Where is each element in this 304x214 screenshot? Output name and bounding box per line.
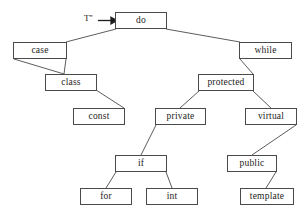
tree-node-for[interactable]: for xyxy=(80,188,132,205)
tree-node-label: class xyxy=(61,78,80,88)
tree-edge xyxy=(253,91,271,108)
tree-node-const[interactable]: const xyxy=(73,108,125,125)
tree-edge xyxy=(64,59,66,74)
tree-node-label: private xyxy=(167,112,195,122)
tree-edge xyxy=(14,59,64,74)
tree-edge xyxy=(180,91,199,108)
tree-node-template[interactable]: template xyxy=(240,188,294,205)
tree-edge xyxy=(166,29,240,42)
tree-node-label: template xyxy=(250,192,284,202)
tree-node-while[interactable]: while xyxy=(239,42,292,59)
tree-node-label: int xyxy=(167,192,178,202)
tree-edge xyxy=(240,59,253,74)
tree-edge xyxy=(252,125,296,155)
tree-edge xyxy=(106,172,116,188)
tree-node-case[interactable]: case xyxy=(13,42,67,59)
tree-node-do[interactable]: do xyxy=(115,12,167,29)
tree-node-int[interactable]: int xyxy=(146,188,198,205)
tree-node-label: while xyxy=(254,46,276,56)
tree-node-if[interactable]: if xyxy=(115,155,167,172)
tree-node-virtual[interactable]: virtual xyxy=(245,108,297,125)
tree-node-class[interactable]: class xyxy=(45,74,97,91)
tree-node-public[interactable]: public xyxy=(227,155,277,172)
root-pointer-label: T'' xyxy=(84,14,93,23)
tree-edge xyxy=(166,172,172,188)
tree-node-label: do xyxy=(136,16,146,26)
tree-node-label: for xyxy=(100,192,112,202)
tree-edge xyxy=(141,125,156,155)
tree-node-label: virtual xyxy=(258,112,284,122)
tree-node-label: if xyxy=(138,159,144,169)
edge-layer xyxy=(0,0,304,214)
tree-edge xyxy=(96,90,124,108)
tree-node-label: case xyxy=(31,46,48,56)
tree-node-protected[interactable]: protected xyxy=(198,74,254,91)
tree-diagram: T'' docasewhileclassprotectedconstprivat… xyxy=(0,0,304,214)
tree-edge xyxy=(266,172,276,188)
tree-node-label: public xyxy=(240,159,265,169)
tree-node-private[interactable]: private xyxy=(155,108,206,125)
tree-edge xyxy=(66,29,116,42)
tree-node-label: protected xyxy=(207,78,244,88)
tree-node-label: const xyxy=(88,112,109,122)
